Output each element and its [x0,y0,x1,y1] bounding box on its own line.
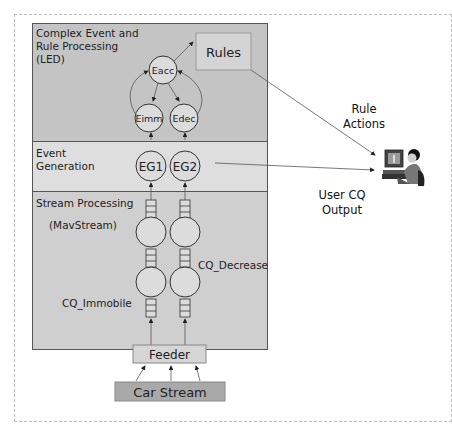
operator-1a [136,217,166,247]
eg1-node: EG1 [136,151,166,181]
eacc-node: Eacc [149,56,177,84]
car-stream-box: Car Stream [115,382,225,401]
queue-2a [180,200,190,218]
operator-2b [170,267,200,297]
queue-1a [146,200,156,218]
rule-actions-label-1: Rule [351,102,376,116]
queue-2c [180,299,190,317]
user-output-label-1: User CQ [319,188,366,202]
eg2-label: EG2 [173,160,198,174]
eimm-label: Eimm [135,113,162,124]
queue-1c [146,299,156,317]
feeder-label: Feeder [149,348,190,362]
eg2-node: EG2 [170,151,200,181]
car-stream-label: Car Stream [133,385,207,400]
user-at-computer-icon [382,149,424,186]
edec-node: Edec [170,104,198,132]
eg1-label: EG1 [139,160,164,174]
user-output-label-2: Output [322,203,362,217]
edec-label: Edec [172,113,195,124]
eacc-label: Eacc [152,65,174,76]
eacc-to-rules-arrow [174,42,193,61]
queue-2b [180,249,190,267]
operator-2a [170,217,200,247]
rules-label: Rules [206,45,241,60]
cq-decrease-label: CQ_Decrease [198,259,268,272]
user-output-arrow [215,163,374,170]
eacc-to-edec-arrow [168,83,179,101]
eacc-to-eimm-arrow [153,83,158,101]
rules-box: Rules [196,33,251,70]
rule-actions-label-2: Actions [343,117,385,131]
cq-immobile-label: CQ_Immobile [62,297,132,310]
carstream-arrow-3 [196,366,200,381]
operator-1b [136,267,166,297]
carstream-arrow-1 [136,366,145,381]
feeder-box: Feeder [133,345,206,363]
queue-1b [146,249,156,267]
eimm-node: Eimm [135,104,163,132]
